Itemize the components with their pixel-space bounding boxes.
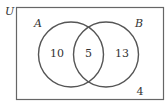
intersection-count: 5 [85,47,92,60]
set-a-label: A [33,17,42,30]
set-b-label: B [134,17,143,30]
venn-diagram: U A B 10 5 13 4 [0,0,166,109]
a-only-count: 10 [50,47,64,60]
set-a-circle [39,22,104,87]
outside-count: 4 [137,85,144,98]
b-only-count: 13 [115,47,129,60]
universe-label: U [5,5,15,18]
